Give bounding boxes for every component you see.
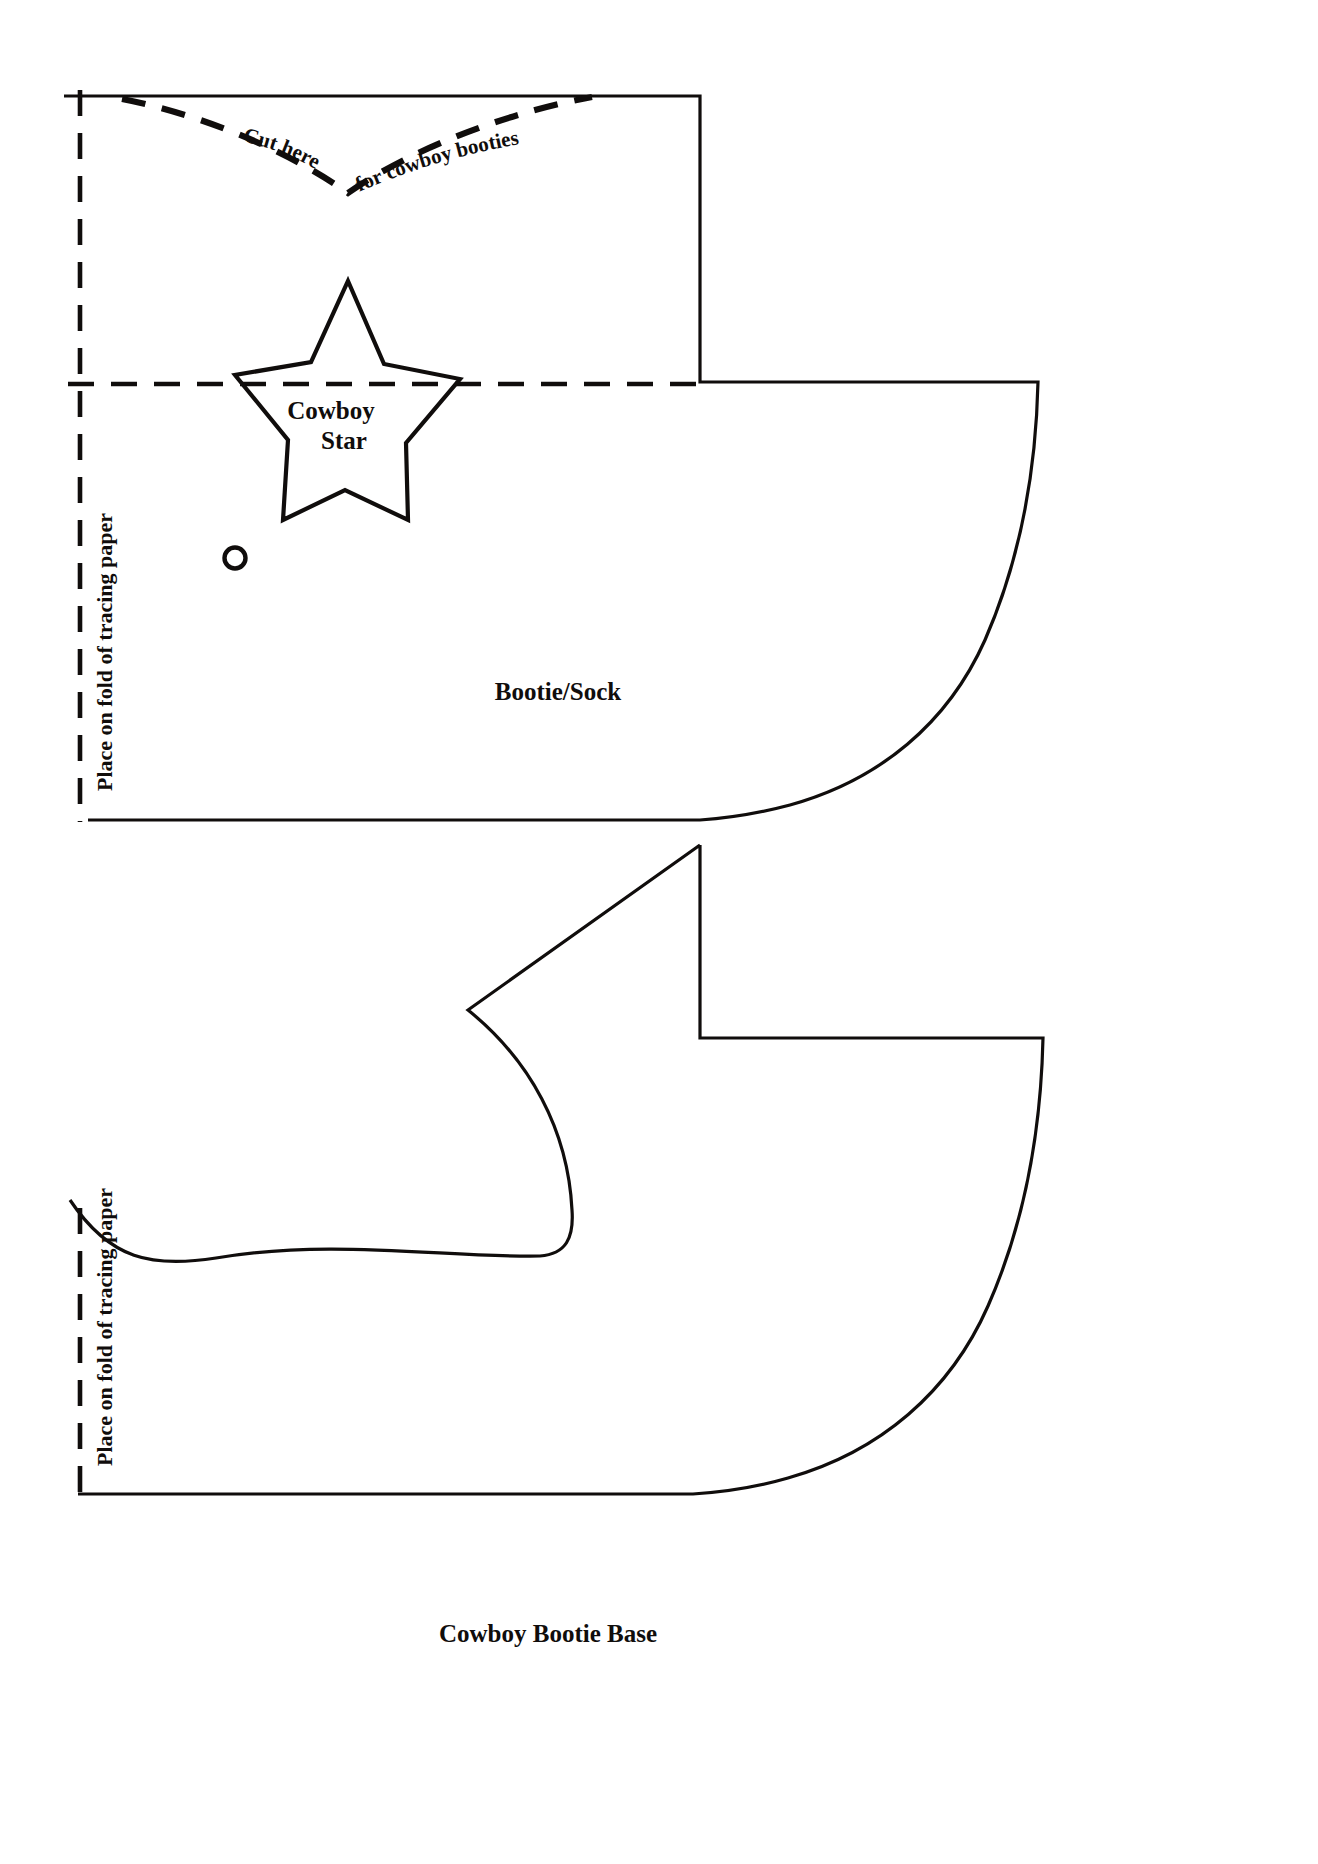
- placement-dot-marker: [225, 548, 246, 569]
- cowboy-bootie-base-label: Cowboy Bootie Base: [439, 1620, 657, 1647]
- place-on-fold-label-bottom: Place on fold of tracing paper: [92, 1188, 117, 1466]
- pattern-canvas: Cut here for cowboy booties Cowboy Star …: [0, 0, 1318, 1864]
- place-on-fold-label-top: Place on fold of tracing paper: [92, 513, 117, 791]
- cut-here-label: Cut here: [241, 123, 324, 173]
- cowboy-star-label-line2: Star: [321, 427, 367, 454]
- cowboy-star-label-line1: Cowboy: [287, 397, 375, 424]
- for-cowboy-booties-label: for cowboy booties: [352, 125, 521, 196]
- bootie-sock-label: Bootie/Sock: [495, 678, 621, 705]
- bootie-sock-outline: [64, 96, 1038, 820]
- bootie-sock-pattern: Cut here for cowboy booties Cowboy Star …: [64, 90, 1038, 822]
- cowboy-bootie-base-pattern: Cowboy Bootie Base Place on fold of trac…: [70, 845, 1043, 1647]
- pattern-sheet: Cut here for cowboy booties Cowboy Star …: [0, 0, 1318, 1864]
- cowboy-bootie-base-outline: [70, 845, 1043, 1494]
